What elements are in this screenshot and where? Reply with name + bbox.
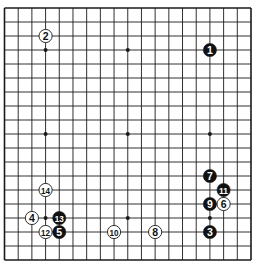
move-number: 5: [56, 226, 62, 238]
white-stone: 14: [39, 183, 52, 196]
black-stone: 13: [53, 211, 66, 224]
black-stone: 9: [203, 197, 216, 210]
star-point: [44, 132, 48, 136]
black-stone: 5: [53, 225, 66, 238]
move-number: 8: [152, 226, 158, 238]
white-stone: 6: [217, 197, 230, 210]
white-stone: 4: [25, 211, 38, 224]
move-number: 10: [110, 228, 119, 238]
move-number: 11: [219, 186, 228, 196]
black-stone: 1: [203, 43, 216, 56]
move-number: 7: [207, 170, 213, 182]
star-point: [126, 48, 130, 52]
move-number: 12: [41, 228, 50, 238]
star-point: [44, 48, 48, 52]
move-number: 14: [41, 186, 50, 196]
move-number: 6: [221, 198, 227, 210]
black-stone: 7: [203, 169, 216, 182]
move-number: 1: [207, 44, 213, 56]
move-number: 13: [55, 214, 64, 224]
move-number: 9: [207, 198, 213, 210]
black-stone: 11: [217, 183, 230, 196]
go-board: 1234567891011121314: [0, 0, 255, 269]
move-number: 3: [207, 226, 213, 238]
white-stone: 8: [149, 225, 162, 238]
star-point: [126, 216, 130, 220]
star-point: [126, 132, 130, 136]
star-point: [44, 216, 48, 220]
black-stone: 3: [203, 225, 216, 238]
move-number: 4: [29, 212, 35, 224]
star-point: [208, 132, 212, 136]
move-number: 2: [43, 30, 49, 42]
star-point: [208, 216, 212, 220]
white-stone: 10: [107, 225, 120, 238]
white-stone: 2: [39, 29, 52, 42]
white-stone: 12: [39, 225, 52, 238]
